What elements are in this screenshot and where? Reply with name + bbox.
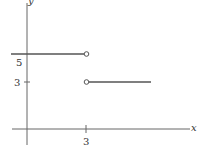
x-tick-label-3: 3 — [83, 136, 89, 147]
open-circle-lower — [84, 80, 89, 85]
step-function-chart: y x 5 3 3 — [0, 0, 198, 150]
y-tick-label-3: 3 — [14, 77, 20, 88]
open-circle-upper — [84, 52, 89, 57]
y-axis-label: y — [27, 0, 34, 6]
x-axis-label: x — [191, 122, 197, 133]
y-tick-label-5: 5 — [16, 57, 22, 68]
